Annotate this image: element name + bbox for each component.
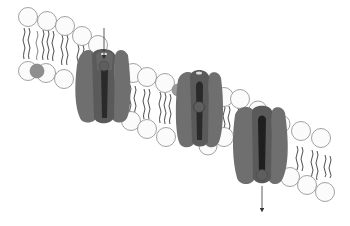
- ion: [257, 170, 268, 181]
- ion-channel-1: [75, 49, 130, 123]
- ion-channel-2: [176, 70, 223, 147]
- ion: [194, 102, 205, 113]
- ion: [99, 61, 109, 71]
- membrane-diagram: [0, 0, 350, 226]
- variant-lipid-head: [30, 64, 44, 78]
- ion-channel-3: [233, 106, 288, 184]
